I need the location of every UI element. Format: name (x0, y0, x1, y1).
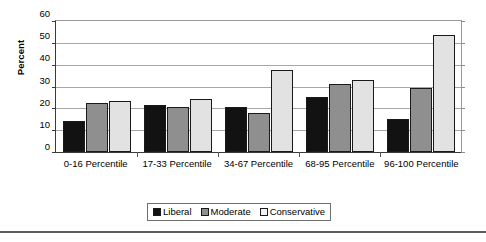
x-axis-label: 34-67 Percentile (218, 158, 299, 192)
y-axis-tickmark (52, 152, 56, 153)
legend: Liberal Moderate Conservative (147, 203, 331, 221)
legend-swatch-icon (201, 208, 209, 216)
legend-item-liberal: Liberal (153, 206, 192, 217)
legend-label: Moderate (211, 206, 251, 217)
bar (225, 107, 247, 152)
bottom-divider (0, 231, 486, 233)
bar (109, 101, 131, 152)
x-axis-tickmark (218, 152, 219, 157)
bar (387, 119, 409, 152)
y-axis-tick-labels: 60 50 40 30 20 10 0 (24, 14, 50, 154)
x-axis-tickmark (380, 152, 381, 157)
y-tick-label: 20 (24, 98, 50, 108)
bar (86, 103, 108, 152)
y-axis-tickmark-right (461, 108, 465, 109)
bar (190, 99, 212, 152)
x-axis-category-labels: 0-16 Percentile17-33 Percentile34-67 Per… (55, 158, 462, 192)
x-axis-label: 68-95 Percentile (299, 158, 380, 192)
bar-groups (56, 21, 461, 152)
y-axis-tickmark-right (461, 43, 465, 44)
y-axis-tickmark-right (461, 65, 465, 66)
legend-label: Liberal (163, 206, 192, 217)
bar (352, 80, 374, 152)
plot-area (55, 20, 462, 153)
legend-label: Conservative (270, 206, 325, 217)
y-tick-label: 50 (24, 31, 50, 41)
bar-group (380, 21, 461, 152)
y-tick-label: 60 (24, 9, 50, 19)
x-axis-tickmark (299, 152, 300, 157)
y-axis-tickmark-right (461, 21, 465, 22)
legend-swatch-icon (260, 208, 268, 216)
legend-item-conservative: Conservative (260, 206, 325, 217)
y-tick-label: 0 (24, 142, 50, 152)
legend-swatch-icon (153, 208, 161, 216)
bar-group (299, 21, 380, 152)
x-axis-label: 96-100 Percentile (381, 158, 462, 192)
bar-chart: Percent 60 50 40 30 20 10 0 0-16 Percent… (0, 0, 486, 242)
bar (410, 88, 432, 152)
bar (433, 35, 455, 152)
y-tick-label: 30 (24, 76, 50, 86)
x-axis-label: 0-16 Percentile (55, 158, 136, 192)
bar (306, 97, 328, 152)
bar-group (218, 21, 299, 152)
y-axis-tickmark-right (461, 130, 465, 131)
y-axis-tickmark-right (461, 87, 465, 88)
y-axis-tickmark-right (461, 152, 465, 153)
bar (63, 121, 85, 152)
y-tick-label: 10 (24, 120, 50, 130)
x-axis-tickmark (137, 152, 138, 157)
y-tick-label: 40 (24, 53, 50, 63)
bar (329, 84, 351, 152)
x-axis-label: 17-33 Percentile (136, 158, 217, 192)
legend-item-moderate: Moderate (201, 206, 251, 217)
bar (167, 107, 189, 152)
bar-group (56, 21, 137, 152)
bar (271, 70, 293, 152)
bar-group (137, 21, 218, 152)
bar (144, 105, 166, 152)
bar (248, 113, 270, 152)
